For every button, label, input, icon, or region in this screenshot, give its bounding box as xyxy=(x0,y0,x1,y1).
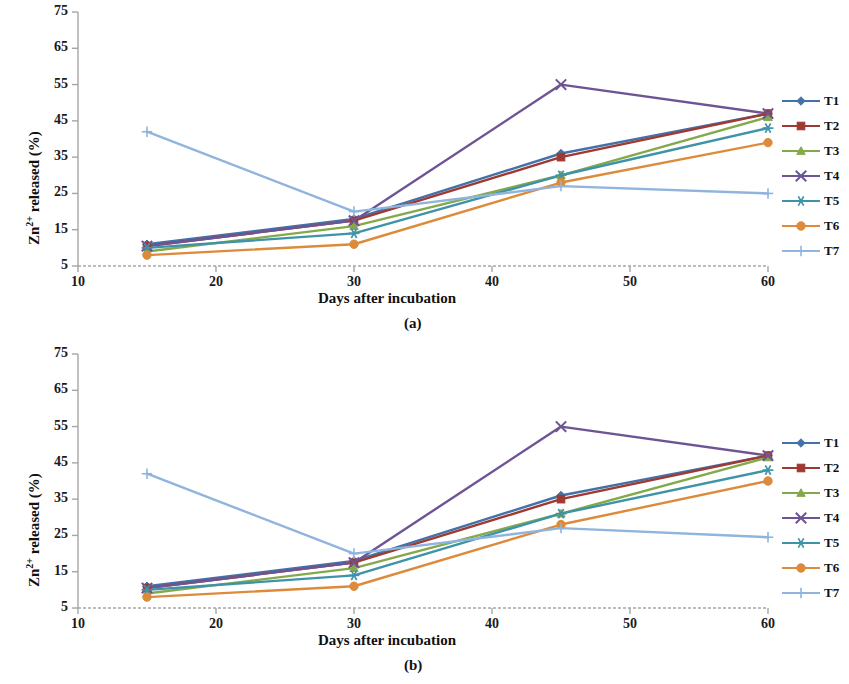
x-tick-label: 20 xyxy=(196,616,236,632)
x-tick-label: 30 xyxy=(334,616,374,632)
y-tick-label: 45 xyxy=(30,112,68,128)
legend-marker-triangle-icon xyxy=(791,144,811,158)
legend-swatch-square-icon xyxy=(782,119,820,133)
legend-swatch-plus-icon xyxy=(782,586,820,600)
y-tick-label: 25 xyxy=(30,184,68,200)
x-tick-label: 20 xyxy=(196,274,236,290)
x-axis-title-a: Days after incubation xyxy=(318,290,456,307)
legend-label: T5 xyxy=(824,194,839,207)
legend-label: T3 xyxy=(824,486,839,499)
legend-marker-star-icon xyxy=(791,536,811,550)
panel-caption-a: (a) xyxy=(404,315,422,332)
legend-marker-circle-icon xyxy=(791,561,811,575)
legend-item-t5[interactable]: T5 xyxy=(782,188,839,213)
legend-label: T7 xyxy=(824,586,839,599)
y-tick-label: 5 xyxy=(30,599,68,615)
figure-zinc-release: Zn2+ released (%) Days after incubation … xyxy=(0,0,849,684)
plot-svg-a xyxy=(0,0,849,300)
plot-svg-b xyxy=(0,342,849,642)
legend-label: T2 xyxy=(824,461,839,474)
legend-marker-diamond-icon xyxy=(791,94,811,108)
legend-item-t3[interactable]: T3 xyxy=(782,138,839,163)
legend-swatch-star-icon xyxy=(782,194,820,208)
x-tick-label: 10 xyxy=(58,274,98,290)
legend-swatch-circle-icon xyxy=(782,219,820,233)
legend-label: T6 xyxy=(824,561,839,574)
legend-marker-circle-icon xyxy=(791,219,811,233)
y-tick-label: 55 xyxy=(30,76,68,92)
legend-item-t2[interactable]: T2 xyxy=(782,113,839,138)
legend-label: T4 xyxy=(824,169,839,182)
y-tick-label: 45 xyxy=(30,454,68,470)
panel-caption-b: (b) xyxy=(404,657,422,674)
legend-swatch-diamond-icon xyxy=(782,94,820,108)
y-tick-label: 5 xyxy=(30,257,68,273)
legend-item-t2[interactable]: T2 xyxy=(782,455,839,480)
legend-label: T4 xyxy=(824,511,839,524)
legend-item-t7[interactable]: T7 xyxy=(782,238,839,263)
legend-swatch-plus-icon xyxy=(782,244,820,258)
y-tick-label: 75 xyxy=(30,345,68,361)
x-tick-label: 10 xyxy=(58,616,98,632)
legend-label: T5 xyxy=(824,536,839,549)
y-tick-label: 65 xyxy=(30,381,68,397)
legend-marker-square-icon xyxy=(791,119,811,133)
legend-swatch-triangle-icon xyxy=(782,486,820,500)
y-tick-label: 35 xyxy=(30,148,68,164)
legend-swatch-cross-icon xyxy=(782,511,820,525)
legend-swatch-circle-icon xyxy=(782,561,820,575)
legend-marker-cross-icon xyxy=(791,511,811,525)
chart-panel-b: Zn2+ released (%) Days after incubation … xyxy=(0,342,849,684)
legend-swatch-star-icon xyxy=(782,536,820,550)
legend-marker-plus-icon xyxy=(791,586,811,600)
x-tick-label: 40 xyxy=(472,616,512,632)
x-tick-label: 60 xyxy=(748,274,788,290)
legend-swatch-cross-icon xyxy=(782,169,820,183)
legend-item-t1[interactable]: T1 xyxy=(782,430,839,455)
y-tick-label: 25 xyxy=(30,526,68,542)
y-tick-label: 35 xyxy=(30,490,68,506)
x-tick-label: 50 xyxy=(610,616,650,632)
legend-marker-star-icon xyxy=(791,194,811,208)
legend-item-t6[interactable]: T6 xyxy=(782,555,839,580)
legend-label: T7 xyxy=(824,244,839,257)
x-tick-label: 60 xyxy=(748,616,788,632)
legend-item-t6[interactable]: T6 xyxy=(782,213,839,238)
y-tick-label: 55 xyxy=(30,418,68,434)
legend-label: T1 xyxy=(824,436,839,449)
legend-item-t3[interactable]: T3 xyxy=(782,480,839,505)
legend-a: T1T2T3T4T5T6T7 xyxy=(782,88,839,263)
legend-b: T1T2T3T4T5T6T7 xyxy=(782,430,839,605)
legend-marker-square-icon xyxy=(791,461,811,475)
legend-label: T1 xyxy=(824,94,839,107)
x-axis-title-b: Days after incubation xyxy=(318,632,456,649)
legend-swatch-square-icon xyxy=(782,461,820,475)
legend-item-t4[interactable]: T4 xyxy=(782,163,839,188)
legend-item-t7[interactable]: T7 xyxy=(782,580,839,605)
y-tick-label: 75 xyxy=(30,3,68,19)
legend-label: T3 xyxy=(824,144,839,157)
legend-item-t4[interactable]: T4 xyxy=(782,505,839,530)
legend-label: T6 xyxy=(824,219,839,232)
x-tick-label: 30 xyxy=(334,274,374,290)
legend-label: T2 xyxy=(824,119,839,132)
legend-item-t1[interactable]: T1 xyxy=(782,88,839,113)
legend-marker-triangle-icon xyxy=(791,486,811,500)
legend-marker-diamond-icon xyxy=(791,436,811,450)
legend-marker-cross-icon xyxy=(791,169,811,183)
x-tick-label: 40 xyxy=(472,274,512,290)
legend-marker-plus-icon xyxy=(791,244,811,258)
legend-swatch-triangle-icon xyxy=(782,144,820,158)
chart-panel-a: Zn2+ released (%) Days after incubation … xyxy=(0,0,849,342)
y-tick-label: 65 xyxy=(30,39,68,55)
y-tick-label: 15 xyxy=(30,221,68,237)
y-tick-label: 15 xyxy=(30,563,68,579)
x-tick-label: 50 xyxy=(610,274,650,290)
legend-item-t5[interactable]: T5 xyxy=(782,530,839,555)
legend-swatch-diamond-icon xyxy=(782,436,820,450)
